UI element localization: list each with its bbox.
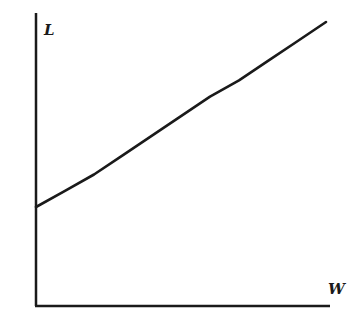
line-chart: L W bbox=[0, 0, 358, 318]
x-axis-label: W bbox=[328, 280, 347, 298]
y-axis-label: L bbox=[43, 21, 55, 39]
data-line bbox=[36, 22, 326, 207]
